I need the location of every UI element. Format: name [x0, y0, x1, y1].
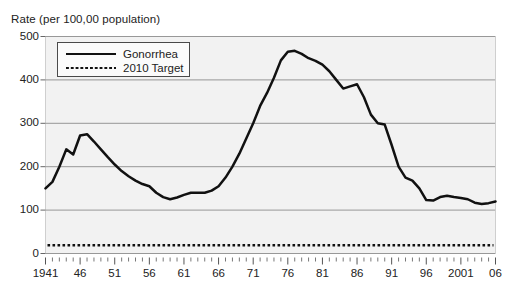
legend-solid-line-swatch — [66, 49, 116, 59]
y-axis-tick-label: 500 — [5, 31, 39, 43]
legend-item-gonorrhea: Gonorrhea — [66, 47, 178, 60]
legend-dotted-line-swatch — [66, 63, 116, 73]
legend-label-2010-target: 2010 Target — [123, 62, 184, 74]
x-axis-tick-label: 06 — [476, 268, 516, 280]
gonorrhea-rate-chart: Rate (per 100,00 population) 01002003004… — [0, 0, 521, 290]
legend-item-2010-target: 2010 Target — [66, 61, 184, 74]
y-axis-tick-label: 300 — [5, 117, 39, 129]
y-axis-tick-label: 0 — [5, 248, 39, 260]
y-axis-tick-label: 100 — [5, 204, 39, 216]
y-axis-tick-label: 400 — [5, 74, 39, 86]
chart-legend: Gonorrhea 2010 Target — [57, 42, 190, 77]
y-axis-tick-label: 200 — [5, 161, 39, 173]
legend-label-gonorrhea: Gonorrhea — [123, 48, 178, 60]
